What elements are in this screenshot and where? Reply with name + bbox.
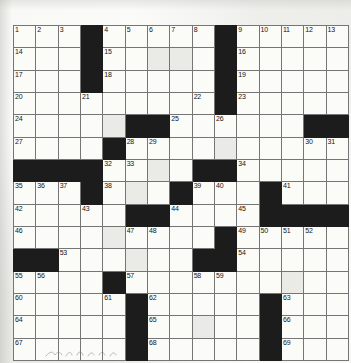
grid-cell[interactable]	[36, 70, 58, 92]
grid-cell[interactable]	[281, 249, 303, 271]
grid-cell[interactable]	[304, 316, 326, 338]
grid-cell[interactable]	[326, 92, 348, 114]
grid-cell[interactable]	[36, 48, 58, 70]
grid-cell[interactable]	[304, 271, 326, 293]
grid-cell[interactable]	[36, 293, 58, 315]
grid-cell-numbered[interactable]: 65	[147, 316, 169, 338]
grid-cell[interactable]	[259, 92, 281, 114]
grid-cell[interactable]	[237, 115, 259, 137]
grid-cell[interactable]	[58, 316, 80, 338]
grid-cell-numbered[interactable]: 33	[125, 159, 147, 181]
grid-cell-numbered[interactable]: 7	[170, 26, 192, 48]
grid-cell[interactable]	[58, 92, 80, 114]
grid-cell[interactable]	[170, 70, 192, 92]
grid-cell-numbered[interactable]: 64	[14, 316, 36, 338]
grid-cell[interactable]	[192, 48, 214, 70]
grid-cell-numbered[interactable]: 48	[147, 226, 169, 248]
grid-cell-numbered[interactable]: 29	[147, 137, 169, 159]
grid-cell[interactable]	[281, 92, 303, 114]
grid-cell[interactable]	[36, 316, 58, 338]
grid-cell-numbered[interactable]: 26	[214, 115, 236, 137]
grid-cell-numbered[interactable]: 17	[14, 70, 36, 92]
grid-cell[interactable]	[214, 204, 236, 226]
grid-cell-numbered[interactable]: 4	[103, 26, 125, 48]
grid-cell[interactable]	[281, 271, 303, 293]
grid-cell[interactable]	[326, 271, 348, 293]
grid-cell-numbered[interactable]: 32	[103, 159, 125, 181]
grid-cell[interactable]	[214, 338, 236, 360]
grid-cell[interactable]	[326, 159, 348, 181]
grid-cell[interactable]	[147, 48, 169, 70]
grid-cell[interactable]	[192, 293, 214, 315]
grid-cell-numbered[interactable]: 20	[14, 92, 36, 114]
grid-cell[interactable]	[259, 115, 281, 137]
grid-cell-numbered[interactable]: 49	[237, 226, 259, 248]
grid-cell-numbered[interactable]: 12	[304, 26, 326, 48]
grid-cell-numbered[interactable]: 35	[14, 182, 36, 204]
grid-cell[interactable]	[170, 249, 192, 271]
grid-cell-numbered[interactable]: 27	[14, 137, 36, 159]
grid-cell[interactable]	[58, 271, 80, 293]
grid-cell[interactable]	[58, 204, 80, 226]
grid-cell-numbered[interactable]: 62	[147, 293, 169, 315]
grid-cell[interactable]	[281, 115, 303, 137]
grid-cell[interactable]	[80, 249, 102, 271]
grid-cell-numbered[interactable]: 41	[281, 182, 303, 204]
grid-cell[interactable]	[326, 293, 348, 315]
grid-cell[interactable]	[103, 249, 125, 271]
grid-cell[interactable]	[281, 159, 303, 181]
grid-cell[interactable]	[304, 293, 326, 315]
grid-cell[interactable]	[170, 271, 192, 293]
grid-cell-numbered[interactable]: 56	[36, 271, 58, 293]
grid-cell-numbered[interactable]: 44	[170, 204, 192, 226]
grid-cell[interactable]	[170, 92, 192, 114]
grid-cell-numbered[interactable]: 34	[237, 159, 259, 181]
grid-cell-numbered[interactable]: 21	[80, 92, 102, 114]
grid-cell[interactable]	[281, 48, 303, 70]
grid-cell[interactable]	[326, 249, 348, 271]
grid-cell-numbered[interactable]: 40	[214, 182, 236, 204]
grid-cell[interactable]	[80, 271, 102, 293]
grid-cell-numbered[interactable]: 69	[281, 338, 303, 360]
grid-cell[interactable]	[259, 48, 281, 70]
grid-cell[interactable]	[36, 204, 58, 226]
grid-cell[interactable]	[58, 137, 80, 159]
grid-cell[interactable]	[170, 137, 192, 159]
grid-cell-numbered[interactable]: 3	[58, 26, 80, 48]
grid-cell[interactable]	[304, 159, 326, 181]
grid-cell-numbered[interactable]: 23	[237, 92, 259, 114]
grid-cell[interactable]	[147, 249, 169, 271]
grid-cell-numbered[interactable]: 52	[304, 226, 326, 248]
grid-cell[interactable]	[192, 316, 214, 338]
grid-cell[interactable]	[170, 316, 192, 338]
grid-cell[interactable]	[147, 182, 169, 204]
grid-cell[interactable]	[170, 48, 192, 70]
grid-cell[interactable]	[326, 182, 348, 204]
grid-cell[interactable]	[326, 70, 348, 92]
grid-cell-numbered[interactable]: 28	[125, 137, 147, 159]
grid-cell-numbered[interactable]: 43	[80, 204, 102, 226]
grid-cell[interactable]	[170, 338, 192, 360]
grid-cell-numbered[interactable]: 46	[14, 226, 36, 248]
grid-cell[interactable]	[125, 70, 147, 92]
grid-cell-numbered[interactable]: 11	[281, 26, 303, 48]
grid-cell[interactable]	[58, 293, 80, 315]
grid-cell[interactable]	[103, 115, 125, 137]
grid-cell-numbered[interactable]: 67	[14, 338, 36, 360]
grid-cell[interactable]	[147, 159, 169, 181]
grid-cell-numbered[interactable]: 25	[170, 115, 192, 137]
grid-cell[interactable]	[103, 204, 125, 226]
grid-cell[interactable]	[192, 338, 214, 360]
grid-cell[interactable]	[326, 316, 348, 338]
grid-cell[interactable]	[36, 226, 58, 248]
grid-cell[interactable]	[237, 316, 259, 338]
grid-cell[interactable]	[192, 226, 214, 248]
grid-cell[interactable]	[58, 48, 80, 70]
grid-cell[interactable]	[192, 115, 214, 137]
grid-cell[interactable]	[80, 316, 102, 338]
grid-cell[interactable]	[237, 338, 259, 360]
grid-cell-numbered[interactable]: 13	[326, 26, 348, 48]
grid-cell[interactable]	[58, 115, 80, 137]
grid-cell-numbered[interactable]: 1	[14, 26, 36, 48]
grid-cell-numbered[interactable]: 47	[125, 226, 147, 248]
